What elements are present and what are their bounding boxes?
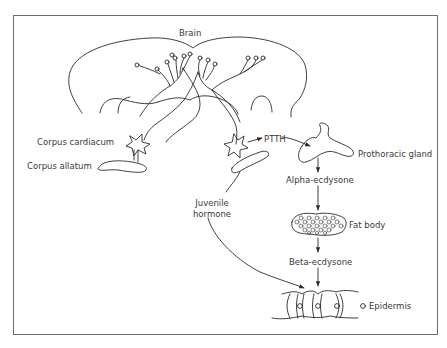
epidermis-layer [282, 291, 358, 295]
diagram-canvas [0, 0, 447, 348]
alpha-ecdysone-label: Alpha-ecdysone [286, 176, 354, 185]
corpus-allatum-left [98, 161, 146, 173]
prothoracic-gland-label: Prothoracic gland [358, 150, 432, 159]
prothoracic-gland [299, 123, 354, 162]
brain-lower-left [100, 99, 158, 113]
epidermis-label: Epidermis [369, 302, 411, 311]
neuron-right [198, 72, 240, 122]
corpus-cardiacum-label: Corpus cardiacum [37, 138, 114, 147]
brain-label: Brain [179, 29, 201, 38]
neuron-left [140, 68, 183, 116]
corpus-allatum-label: Corpus allatum [27, 162, 92, 171]
beta-ecdysone-label: Beta-ecdysone [289, 258, 352, 267]
corpus-cardiacum-right [224, 134, 248, 158]
corpus-allatum-right [232, 151, 269, 173]
juvenile-hormone-label-2: hormone [190, 210, 234, 219]
fat-body-label: Fat body [349, 221, 385, 230]
juvenile-hormone-label-1: Juvenile [192, 199, 232, 208]
ptth-label: PTTH [264, 135, 286, 144]
